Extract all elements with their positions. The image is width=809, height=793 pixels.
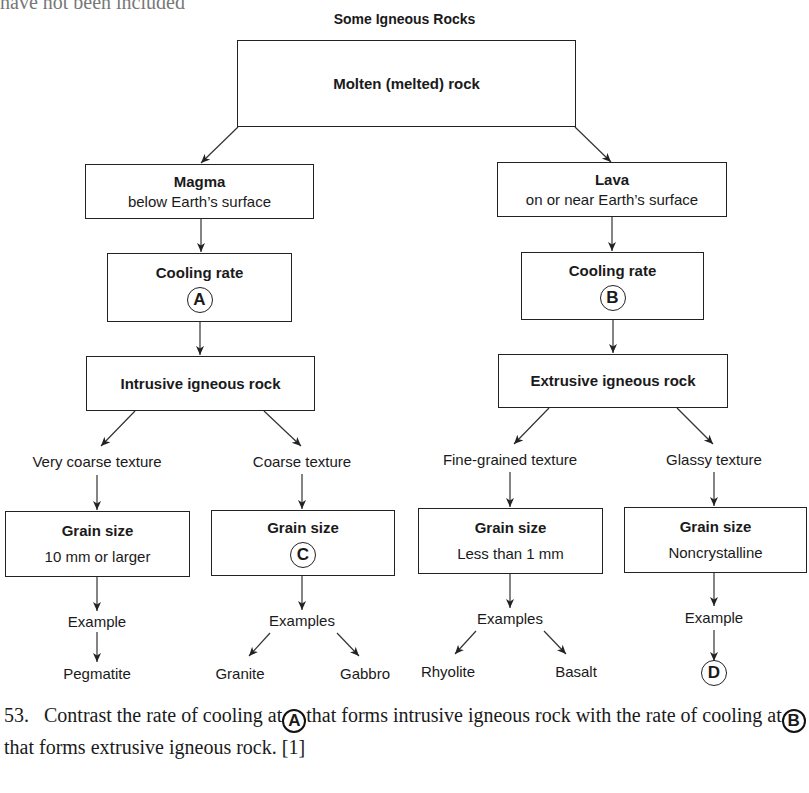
grain-size-box: Grain size Less than 1 mm: [418, 508, 603, 574]
molten-rock-label: Molten (melted) rock: [333, 74, 480, 94]
marker-d: D: [701, 660, 727, 686]
question-marker-b: B: [782, 709, 806, 733]
intrusive-rock-box: Intrusive igneous rock: [86, 356, 315, 411]
lava-title: Lava: [595, 170, 629, 190]
example-marker-wrap: D: [701, 660, 727, 686]
question-text-1: Contrast the rate of cooling at: [44, 704, 282, 726]
lava-subtitle: on or near Earth’s surface: [526, 190, 698, 210]
examples-label: Examples: [269, 612, 335, 629]
texture-label: Coarse texture: [253, 453, 351, 470]
question-text-3: that forms extrusive igneous rock. [1]: [4, 736, 305, 758]
lava-box: Lava on or near Earth’s surface: [497, 162, 727, 217]
cooling-rate-a-title: Cooling rate: [156, 263, 244, 283]
grain-size-value: 10 mm or larger: [45, 547, 151, 567]
examples-label: Examples: [477, 610, 543, 627]
examples-label: Example: [68, 613, 126, 630]
magma-subtitle: below Earth’s surface: [128, 192, 271, 212]
grain-size-title: Grain size: [267, 518, 339, 538]
marker-b: B: [600, 285, 626, 311]
grain-size-box: Grain size 10 mm or larger: [5, 511, 190, 577]
grain-size-title: Grain size: [680, 517, 752, 537]
examples-label: Example: [685, 609, 743, 626]
question-text-2: that forms intrusive igneous rock with t…: [306, 704, 781, 726]
intrusive-rock-label: Intrusive igneous rock: [120, 374, 280, 394]
extrusive-rock-label: Extrusive igneous rock: [530, 371, 695, 391]
cooling-rate-a-box: Cooling rate A: [107, 253, 292, 322]
texture-label: Glassy texture: [666, 451, 762, 468]
grain-size-title: Grain size: [475, 518, 547, 538]
grain-size-title: Grain size: [62, 521, 134, 541]
magma-title: Magma: [174, 172, 226, 192]
texture-label: Fine-grained texture: [443, 451, 577, 468]
grain-size-value: Noncrystalline: [668, 543, 762, 563]
rock-example: Rhyolite: [421, 663, 475, 680]
marker-c: C: [290, 542, 316, 568]
grain-size-box: Grain size C: [211, 510, 395, 576]
rock-example: Pegmatite: [63, 665, 131, 682]
question-marker-a: A: [282, 709, 306, 733]
rock-example: Basalt: [555, 663, 597, 680]
marker-a: A: [187, 287, 213, 313]
molten-rock-box: Molten (melted) rock: [237, 40, 576, 127]
grain-size-box: Grain size Noncrystalline: [624, 507, 807, 573]
diagram-title: Some Igneous Rocks: [0, 11, 809, 27]
rock-example: Gabbro: [340, 665, 390, 682]
magma-box: Magma below Earth’s surface: [85, 164, 314, 219]
question-number: 53.: [4, 704, 29, 726]
texture-label: Very coarse texture: [32, 453, 161, 470]
question-53: 53. Contrast the rate of cooling atAthat…: [4, 701, 809, 761]
rock-example: Granite: [215, 665, 264, 682]
cooling-rate-b-box: Cooling rate B: [521, 252, 704, 320]
extrusive-rock-box: Extrusive igneous rock: [498, 354, 728, 408]
grain-size-value: Less than 1 mm: [457, 544, 564, 564]
cooling-rate-b-title: Cooling rate: [569, 261, 657, 281]
